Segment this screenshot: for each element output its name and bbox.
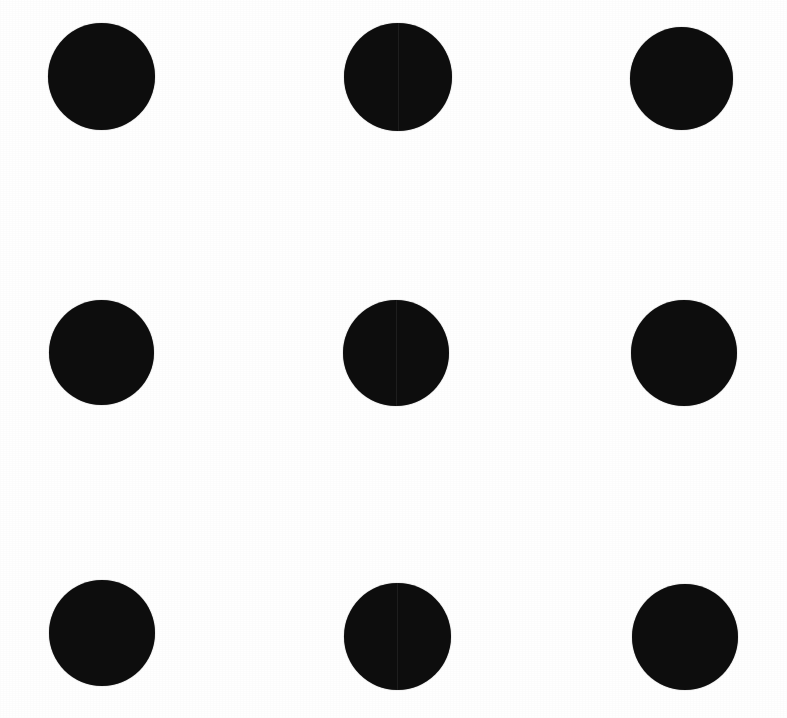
dot-middle-center bbox=[343, 300, 449, 406]
dot-top-center bbox=[344, 23, 452, 131]
dot-bottom-left bbox=[49, 580, 155, 686]
dot-top-right bbox=[630, 27, 733, 130]
dot-middle-left bbox=[49, 300, 154, 405]
scan-seam-line bbox=[397, 583, 398, 690]
scan-seam-line bbox=[396, 300, 397, 406]
scan-seam-line bbox=[398, 23, 399, 131]
dot-top-left bbox=[48, 23, 155, 130]
dot-bottom-center bbox=[344, 583, 451, 690]
dot-middle-right bbox=[631, 300, 737, 406]
dot-grid-canvas bbox=[0, 0, 787, 718]
dot-bottom-right bbox=[632, 584, 738, 690]
